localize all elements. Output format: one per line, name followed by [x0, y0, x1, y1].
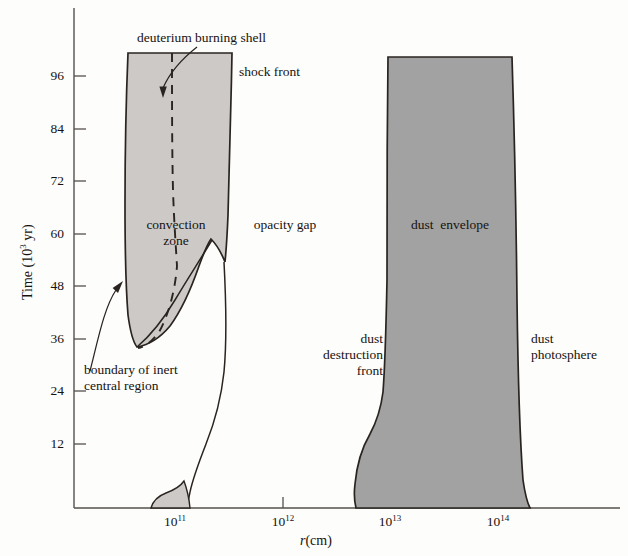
x-tick-label-1e14: 1014: [468, 514, 528, 530]
y-tick-label-96: 96: [30, 68, 64, 84]
convection-axis-bump: [151, 481, 190, 508]
label-dust-destruction-line1: dust: [360, 331, 383, 346]
label-shock-front: shock front: [239, 64, 300, 80]
label-dust-photosphere-line1: dust: [531, 331, 554, 346]
x-tick-exponent-3: 13: [392, 513, 401, 523]
label-dust-photosphere: dustphotosphere: [531, 331, 623, 363]
label-dust-envelope: dust envelope: [402, 217, 498, 233]
label-dust-destruction-line2: destruction: [323, 347, 383, 362]
label-convection-zone-line2: zone: [163, 233, 188, 248]
region-convection-zone: [125, 53, 232, 347]
label-convection-zone: convectionzone: [133, 217, 219, 249]
label-dust-destruction-front: dustdestructionfront: [315, 331, 383, 379]
y-tick-label-84: 84: [30, 121, 64, 137]
x-tick-mantissa-3: 10: [379, 514, 393, 529]
y-tick-label-36: 36: [30, 331, 64, 347]
label-boundary-inert-central-region: boundary of inertcentral region: [84, 362, 178, 394]
boundary-inert-annotation-arrow: [90, 281, 123, 371]
x-tick-mantissa-4: 10: [487, 514, 501, 529]
x-tick-exponent-4: 14: [500, 513, 509, 523]
figure-caption: [18, 545, 618, 556]
y-axis-title: Time (103 yr): [20, 224, 37, 300]
x-tick-label-1e11: 1011: [145, 514, 205, 530]
y-tick-label-12: 12: [30, 436, 64, 452]
label-deuterium-burning-shell: deuterium burning shell: [137, 30, 266, 46]
y-tick-label-24: 24: [30, 383, 64, 399]
x-tick-exponent-2: 12: [285, 513, 294, 523]
x-tick-label-1e13: 1013: [360, 514, 420, 530]
y-axis-title-exponent: 3: [18, 244, 28, 249]
y-tick-label-72: 72: [30, 173, 64, 189]
convection-tail-curve: [188, 262, 226, 508]
x-tick-mantissa-1: 10: [164, 514, 178, 529]
label-opacity-gap: opacity gap: [240, 217, 330, 233]
label-dust-destruction-line3: front: [357, 363, 383, 378]
label-boundary-inert-line1: boundary of inert: [84, 362, 178, 377]
y-axis-title-post: yr): [20, 224, 35, 244]
x-tick-mantissa-2: 10: [272, 514, 286, 529]
figure-container: 96 84 72 60 48 36 24 12 Time (103 yr) 10…: [0, 0, 628, 556]
label-dust-photosphere-line2: photosphere: [531, 347, 597, 362]
plot-canvas: [0, 0, 628, 556]
label-convection-zone-line1: convection: [146, 217, 205, 232]
x-tick-exponent-1: 11: [177, 513, 186, 523]
label-boundary-inert-line2: central region: [84, 378, 159, 393]
region-dust-envelope: [354, 57, 530, 508]
x-tick-label-1e12: 1012: [253, 514, 313, 530]
y-axis-title-pre: Time (10: [20, 249, 35, 300]
